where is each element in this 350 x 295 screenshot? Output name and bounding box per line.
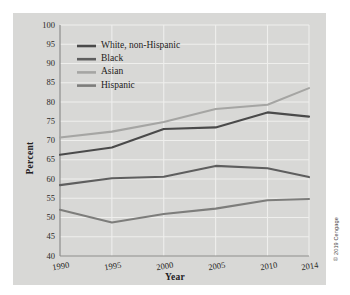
legend-label-2: Asian [101, 66, 123, 76]
gridlines [60, 25, 309, 256]
series-line-3 [60, 199, 309, 222]
y-tick-70: 70 [33, 135, 55, 145]
y-tick-40: 40 [33, 251, 55, 261]
y-tick-60: 60 [33, 174, 55, 184]
y-tick-80: 80 [33, 97, 55, 107]
data-series [60, 88, 309, 222]
legend-label-3: Hispanic [101, 80, 135, 90]
y-tick-90: 90 [33, 58, 55, 68]
legend-label-1: Black [101, 53, 123, 63]
y-tick-55: 55 [33, 193, 55, 203]
copyright-credit: © 2019 Cengage [333, 209, 339, 269]
y-tick-100: 100 [33, 20, 55, 30]
legend-label-0: White, non-Hispanic [101, 40, 180, 50]
series-line-1 [60, 166, 309, 185]
y-axis-title: Percent [25, 128, 35, 188]
y-tick-95: 95 [33, 39, 55, 49]
x-axis-title: Year [0, 272, 350, 282]
line-chart-plot [13, 13, 326, 285]
chart-figure: 404550556065707580859095100 199019952000… [0, 0, 350, 295]
legend-swatches [77, 46, 96, 86]
y-tick-65: 65 [33, 154, 55, 164]
y-tick-45: 45 [33, 231, 55, 241]
y-tick-75: 75 [33, 116, 55, 126]
chart-panel: 404550556065707580859095100 199019952000… [13, 13, 326, 285]
y-tick-85: 85 [33, 77, 55, 87]
y-tick-50: 50 [33, 212, 55, 222]
